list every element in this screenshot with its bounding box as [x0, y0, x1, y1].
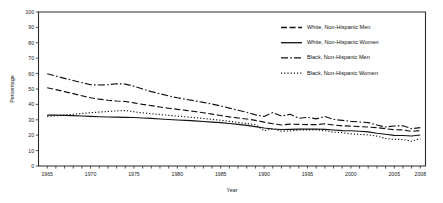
legend-label-3: Black, Non-Hispanic Women: [307, 70, 378, 76]
series-line-0: [47, 88, 420, 132]
chart-legend: White, Non-Hispanic MenWhite, Non-Hispan…: [281, 24, 379, 76]
y-tick-label: 70: [28, 55, 34, 61]
y-tick-label: 10: [28, 148, 34, 154]
x-tick-label: 1995: [302, 171, 314, 177]
y-tick-label: 100: [25, 9, 34, 15]
series-line-1: [47, 115, 420, 136]
x-tick-label: 1975: [128, 171, 140, 177]
y-tick-label: 20: [28, 132, 34, 138]
y-axis-title: Percentage: [9, 75, 15, 103]
plot-frame: [39, 12, 426, 166]
series-line-3: [47, 111, 420, 142]
x-tick-label: 1990: [258, 171, 270, 177]
x-tick-label: 2008: [415, 171, 427, 177]
legend-label-2: Black, Non-Hispanic Men: [307, 54, 370, 60]
x-tick-label: 1970: [85, 171, 97, 177]
line-chart: 0102030405060708090100 19651970197519801…: [0, 0, 443, 203]
y-tick-label: 90: [28, 24, 34, 30]
x-axis-ticks: 1965197019751980198519901995200020052008: [41, 166, 426, 177]
y-tick-label: 30: [28, 117, 34, 123]
x-tick-label: 1980: [172, 171, 184, 177]
x-tick-label: 2005: [388, 171, 400, 177]
x-tick-label: 2000: [345, 171, 357, 177]
y-axis-ticks: 0102030405060708090100: [25, 9, 38, 169]
plot-border: [39, 12, 426, 166]
y-tick-label: 80: [28, 40, 34, 46]
y-tick-label: 50: [28, 86, 34, 92]
series-line-2: [47, 74, 420, 129]
x-tick-label: 1985: [215, 171, 227, 177]
x-axis-title: Year: [227, 187, 238, 193]
y-tick-label: 0: [31, 163, 34, 169]
chart-container: 0102030405060708090100 19651970197519801…: [0, 0, 443, 203]
legend-label-1: White, Non-Hispanic Women: [307, 39, 379, 45]
x-tick-label: 1965: [41, 171, 53, 177]
y-tick-label: 40: [28, 101, 34, 107]
data-series-group: [47, 74, 420, 141]
y-tick-label: 60: [28, 71, 34, 77]
legend-label-0: White, Non-Hispanic Men: [307, 24, 370, 30]
